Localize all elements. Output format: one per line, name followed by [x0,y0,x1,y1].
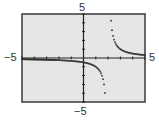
curve-point [112,35,114,37]
y-max-label: 5 [79,2,85,13]
curve-point [113,39,115,41]
x-max-label: 5 [149,52,155,63]
curve-point [114,42,116,44]
curve-point [111,29,113,31]
curve-point [98,69,100,71]
x-min-label: −5 [4,52,17,63]
curve-point [104,92,106,94]
curve-point [102,78,104,80]
curve-point [110,20,112,22]
curve-point [100,72,102,74]
curve-point [99,71,101,73]
y-min-label: −5 [74,106,87,117]
curve-point [115,43,117,45]
curve-point [103,84,105,86]
curve-point [101,75,103,77]
curve-point [144,54,146,56]
